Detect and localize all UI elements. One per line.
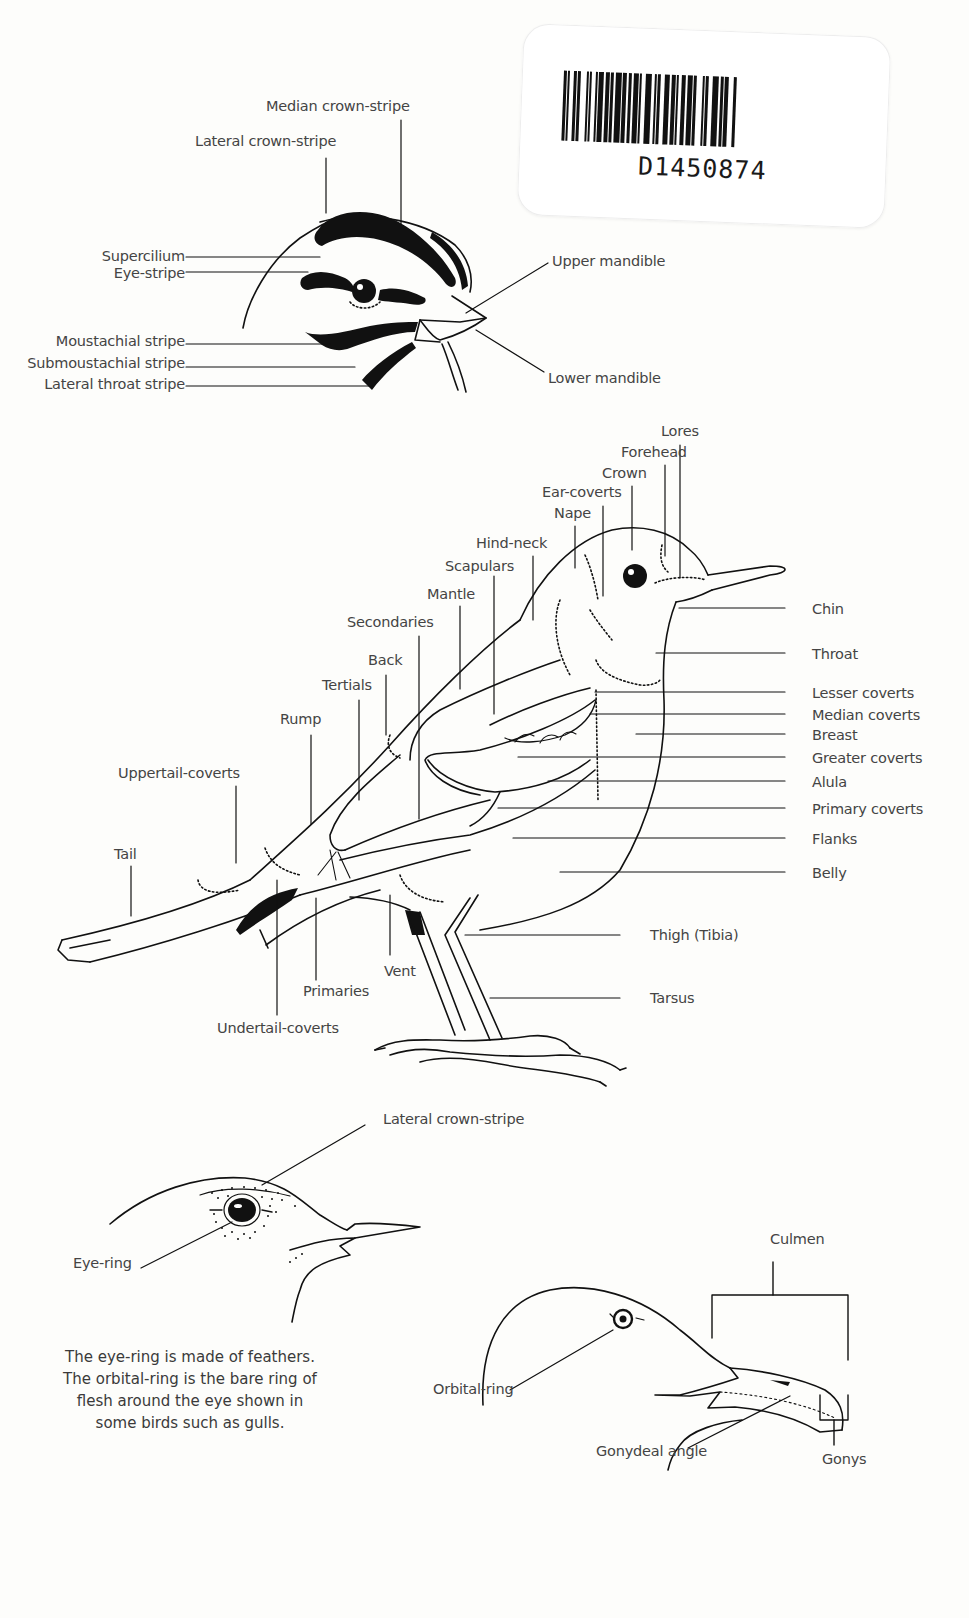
label-tail: Tail (114, 847, 137, 862)
label-alula: Alula (812, 775, 847, 790)
label-vent: Vent (384, 964, 416, 979)
label-ear-coverts: Ear-coverts (542, 485, 622, 500)
label-crown: Crown (602, 466, 647, 481)
label-lesser-coverts: Lesser coverts (812, 686, 914, 701)
label-rump: Rump (280, 712, 321, 727)
label-supercilium: Supercilium (102, 249, 185, 264)
label-undertail-coverts: Undertail-coverts (217, 1021, 339, 1036)
eye-ring-head-drawing (110, 1178, 420, 1322)
label-chin: Chin (812, 602, 844, 617)
label-gonys: Gonys (822, 1452, 866, 1467)
label-tertials: Tertials (322, 678, 372, 693)
label-moustachial-stripe: Moustachial stripe (56, 334, 185, 349)
label-submoustachial-stripe: Submoustachial stripe (27, 356, 185, 371)
head2-leader-lines (141, 1125, 365, 1268)
label-primaries: Primaries (303, 984, 369, 999)
label-eye-ring: Eye-ring (73, 1256, 132, 1271)
head3-leader-lines (510, 1330, 790, 1448)
label-primary-coverts: Primary coverts (812, 802, 923, 817)
eye-ring-caption: The eye-ring is made of feathers. The or… (55, 1346, 325, 1434)
label-thigh-tibia: Thigh (Tibia) (650, 928, 738, 943)
label-median-crown-stripe: Median crown-stripe (266, 99, 410, 114)
label-secondaries: Secondaries (347, 615, 434, 630)
label-hind-neck: Hind-neck (476, 536, 547, 551)
label-uppertail-coverts: Uppertail-coverts (118, 766, 240, 781)
label-forehead: Forehead (621, 445, 687, 460)
head1-leader-lines (186, 120, 548, 386)
label-lores: Lores (661, 424, 699, 439)
label-lateral-crown-stripe: Lateral crown-stripe (195, 134, 336, 149)
label-breast: Breast (812, 728, 857, 743)
label-orbital-ring: Orbital-ring (433, 1382, 513, 1397)
label-throat: Throat (812, 647, 858, 662)
label-flanks: Flanks (812, 832, 857, 847)
label-median-coverts: Median coverts (812, 708, 920, 723)
label-tarsus: Tarsus (650, 991, 694, 1006)
label-scapulars: Scapulars (445, 559, 514, 574)
label-back: Back (368, 653, 402, 668)
label-upper-mandible: Upper mandible (552, 254, 665, 269)
label-lateral-crown-stripe-2: Lateral crown-stripe (383, 1112, 524, 1127)
label-gonydeal-angle: Gonydeal angle (596, 1444, 707, 1459)
label-greater-coverts: Greater coverts (812, 751, 922, 766)
label-mantle: Mantle (427, 587, 475, 602)
label-lateral-throat-stripe: Lateral throat stripe (44, 377, 185, 392)
label-culmen: Culmen (770, 1232, 824, 1247)
label-nape: Nape (554, 506, 591, 521)
label-belly: Belly (812, 866, 847, 881)
striped-head-drawing (243, 212, 486, 392)
label-eye-stripe: Eye-stripe (114, 266, 185, 281)
label-lower-mandible: Lower mandible (548, 371, 661, 386)
gull-head-drawing (483, 1262, 848, 1470)
